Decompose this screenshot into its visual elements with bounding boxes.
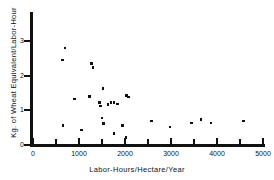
data-point bbox=[61, 59, 64, 62]
y-axis-tick-label: 2 bbox=[14, 72, 24, 79]
data-point bbox=[169, 126, 172, 129]
data-point bbox=[64, 47, 67, 50]
data-point bbox=[113, 132, 116, 135]
y-axis-tick-label: 3 bbox=[14, 37, 24, 44]
x-axis-minor-tick bbox=[239, 139, 241, 145]
y-axis-tick-label: 1 bbox=[14, 106, 24, 113]
data-point bbox=[102, 87, 105, 90]
x-axis-tick-label: 5000 bbox=[248, 150, 274, 158]
data-point bbox=[62, 124, 65, 127]
data-point bbox=[127, 96, 130, 99]
x-axis-tick-label: 0 bbox=[18, 150, 48, 158]
data-point bbox=[92, 66, 95, 69]
y-axis-tick bbox=[24, 109, 31, 111]
x-axis-minor-tick bbox=[101, 139, 103, 145]
data-point bbox=[101, 117, 104, 120]
x-axis-minor-tick bbox=[55, 139, 57, 145]
x-axis-tick bbox=[32, 138, 34, 145]
x-axis-tick bbox=[262, 138, 264, 145]
data-point bbox=[107, 103, 110, 106]
data-point bbox=[121, 124, 124, 127]
x-axis-minor-tick bbox=[147, 139, 149, 145]
scatter-plot-figure: Labor-Hours/Hectare/Year Kg. of Wheat Eq… bbox=[0, 0, 274, 180]
data-point bbox=[125, 136, 128, 139]
x-axis-tick-label: 3000 bbox=[156, 150, 186, 158]
data-point bbox=[242, 120, 245, 123]
x-axis-tick-label: 4000 bbox=[202, 150, 232, 158]
data-point bbox=[88, 95, 91, 98]
x-axis-minor-tick bbox=[193, 139, 195, 145]
data-point bbox=[90, 62, 93, 65]
x-axis-tick bbox=[170, 138, 172, 145]
data-point bbox=[190, 122, 193, 125]
data-point bbox=[116, 103, 119, 106]
data-point bbox=[73, 98, 76, 101]
x-axis-tick-label: 2000 bbox=[110, 150, 140, 158]
data-point bbox=[80, 129, 83, 132]
data-point bbox=[99, 105, 102, 108]
y-axis-tick bbox=[24, 75, 31, 77]
data-point bbox=[113, 101, 116, 104]
y-axis-tick bbox=[24, 40, 31, 42]
data-point bbox=[210, 122, 213, 125]
y-axis-tick-label: 0 bbox=[14, 141, 24, 148]
x-axis-tick bbox=[124, 138, 126, 145]
x-axis-label: Labor-Hours/Hectare/Year bbox=[0, 165, 274, 174]
x-axis-tick bbox=[78, 138, 80, 145]
data-point bbox=[102, 122, 105, 125]
data-point bbox=[150, 120, 153, 123]
data-point bbox=[200, 118, 203, 121]
x-axis-tick bbox=[216, 138, 218, 145]
y-axis-tick bbox=[24, 144, 31, 146]
x-axis-tick-label: 1000 bbox=[64, 150, 94, 158]
plot-area bbox=[33, 12, 263, 145]
